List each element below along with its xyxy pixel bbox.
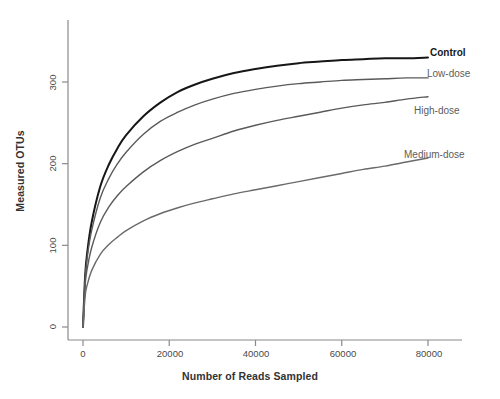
y-tick-label-0: 0 — [47, 312, 58, 342]
x-axis-title: Number of Reads Sampled — [0, 370, 500, 382]
x-tick-label-20000: 20000 — [140, 348, 200, 359]
chart-plot-area — [0, 0, 500, 399]
y-axis-ticks — [62, 82, 68, 327]
y-tick-label-200: 200 — [47, 149, 58, 179]
series-label-control: Control — [430, 47, 466, 58]
x-tick-label-80000: 80000 — [399, 348, 459, 359]
rarefaction-chart: Measured OTUs Number of Reads Sampled 0 … — [0, 0, 500, 399]
series-line-medium-dose — [83, 158, 428, 327]
series-label-medium-dose: Medium-dose — [404, 149, 465, 160]
y-tick-label-300: 300 — [47, 68, 58, 98]
y-axis-title-wrap: Measured OTUs — [0, 0, 40, 360]
x-tick-label-40000: 40000 — [226, 348, 286, 359]
series-line-control — [83, 58, 428, 328]
x-tick-label-0: 0 — [53, 348, 113, 359]
series-line-high-dose — [83, 97, 428, 327]
x-tick-label-60000: 60000 — [313, 348, 373, 359]
x-axis-ticks — [83, 340, 428, 346]
series-line-low-dose — [83, 78, 428, 327]
y-axis-title: Measured OTUs — [14, 111, 26, 231]
data-series-group — [83, 58, 428, 328]
y-tick-label-100: 100 — [47, 231, 58, 261]
series-label-high-dose: High-dose — [414, 105, 460, 116]
series-label-low-dose: Low-dose — [427, 68, 470, 79]
